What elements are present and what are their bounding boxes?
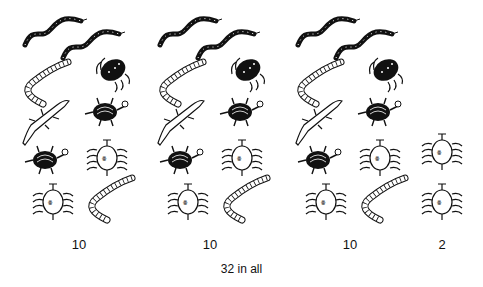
animal-group-2 (150, 0, 275, 230)
animal-group-1 (15, 0, 140, 230)
group-count-4: 2 (422, 237, 462, 252)
total-label: 32 in all (0, 262, 483, 276)
animal-group-4 (418, 0, 468, 230)
group-count-2: 10 (190, 237, 230, 252)
animal-group-3 (288, 0, 413, 230)
group-count-3: 10 (330, 237, 370, 252)
animals-illustration (15, 0, 140, 230)
group-count-1: 10 (59, 237, 99, 252)
animals-illustration (418, 0, 468, 230)
animals-illustration (288, 0, 413, 230)
animals-illustration (150, 0, 275, 230)
